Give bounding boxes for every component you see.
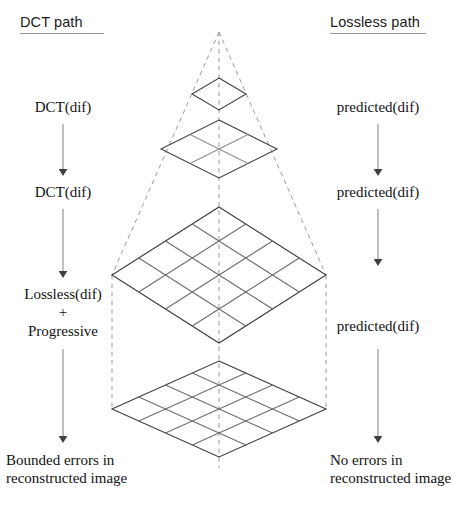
column-header-dct-path-rule — [20, 33, 104, 34]
right-outcome-line-1: No errors in — [330, 451, 456, 469]
left-outcome-line-2: reconstructed image — [6, 469, 156, 487]
level-3-grid-nw-1 — [139, 224, 246, 292]
pyramid-level-2 — [161, 120, 277, 178]
level-4-grid-ne-3 — [139, 397, 246, 445]
column-header-dct-path: DCT path — [20, 14, 104, 34]
left-step-1-dct-dif: DCT(dif) — [0, 98, 126, 116]
column-header-lossless-path-label: Lossless path — [330, 14, 426, 33]
level-3-grid-ne-1 — [192, 224, 299, 292]
pyramid-level-1 — [192, 78, 246, 110]
level-3-grid-ne-3 — [139, 258, 246, 326]
left-outcome-line-1: Bounded errors in — [6, 451, 156, 469]
level-4-outline — [112, 361, 326, 457]
left-step-3-lossless-progressive: Lossless(dif) + Progressive — [0, 285, 126, 340]
column-header-dct-path-label: DCT path — [20, 14, 104, 33]
left-step-2-dct-dif: DCT(dif) — [0, 183, 126, 201]
left-step-3-line-2: + — [0, 303, 126, 321]
level-4-grid-nw-2 — [166, 385, 273, 433]
right-outcome-line-2: reconstructed image — [330, 469, 456, 487]
level-4-grid-ne-2 — [166, 385, 273, 433]
cone-left-guide — [112, 32, 219, 275]
level-3-outline — [112, 207, 326, 343]
column-header-lossless-path: Lossless path — [330, 14, 426, 34]
level-2-grid-b — [190, 135, 248, 164]
level-3-grid-ne-2 — [166, 241, 273, 309]
guide-lines — [112, 32, 326, 468]
left-step-3-line-3: Progressive — [0, 322, 126, 340]
level-2-grid-a — [190, 135, 248, 164]
level-4-grid-nw-1 — [139, 373, 246, 421]
level-1-outline — [192, 78, 246, 110]
cone-right-guide — [219, 32, 326, 275]
right-outcome-no-errors: No errors in reconstructed image — [330, 451, 456, 488]
left-step-3-line-1: Lossless(dif) — [0, 285, 126, 303]
right-step-3-predicted-dif: predicted(dif) — [315, 317, 441, 335]
level-3-grid-nw-3 — [192, 258, 299, 326]
level-3-grid-nw-2 — [166, 241, 273, 309]
left-outcome-bounded-errors: Bounded errors in reconstructed image — [6, 451, 156, 488]
level-4-grid-ne-1 — [192, 373, 299, 421]
pyramid-level-4 — [112, 361, 326, 457]
right-step-1-predicted-dif: predicted(dif) — [315, 98, 441, 116]
level-2-outline — [161, 120, 277, 178]
right-step-2-predicted-dif: predicted(dif) — [315, 183, 441, 201]
level-4-grid-nw-3 — [192, 397, 299, 445]
column-header-lossless-path-rule — [330, 33, 426, 34]
pyramid-level-3 — [112, 207, 326, 343]
